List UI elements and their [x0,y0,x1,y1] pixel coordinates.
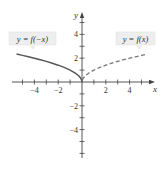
x-tick-label: 4 [128,86,132,95]
y-axis-arrowhead [80,12,84,18]
left-curve-label: y = f(−x) [16,34,48,44]
left-curve-label-callout: y = f(−x) [9,32,56,49]
right-curve-label: y = f(x) [122,34,149,44]
curve-f-of-x [82,54,147,82]
x-axis-label: x [152,84,157,94]
x-tick-label: −2 [54,86,63,95]
function-graph: x y −4−22442−2−4 y = f(−x) y = f(x) [0,0,162,169]
y-tick-label: −4 [69,126,78,135]
y-axis-label: y [73,10,78,20]
y-tick-label: −2 [69,102,78,111]
y-tick-label: 2 [74,54,78,63]
x-tick-label: 2 [104,86,108,95]
right-curve-label-callout: y = f(x) [116,32,155,49]
x-tick-label: −4 [30,86,39,95]
curve-f-of-negative-x [17,54,82,82]
y-tick-label: 4 [74,30,78,39]
